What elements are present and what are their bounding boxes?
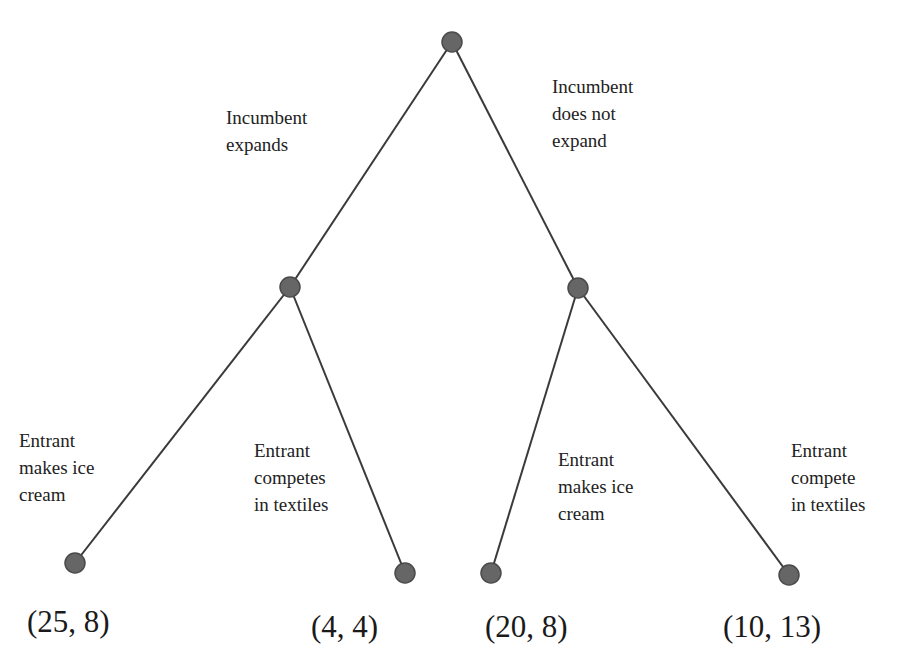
label-right-textiles: Entrant compete in textiles — [791, 437, 865, 518]
decision-node-noexpand — [568, 278, 588, 298]
label-incumbent-not-expand: Incumbent does not expand — [552, 73, 633, 154]
payoff-4: (10, 13) — [723, 610, 821, 644]
edge-root-expand — [290, 42, 452, 287]
terminal-node-4 — [779, 565, 799, 585]
label-left-ice-cream: Entrant makes ice cream — [19, 427, 94, 508]
game-tree — [0, 0, 909, 664]
payoff-3: (20, 8) — [485, 610, 568, 644]
terminal-node-3 — [481, 563, 501, 583]
edge-expand-textiles — [290, 287, 405, 573]
payoff-2: (4, 4) — [311, 610, 378, 644]
payoff-1: (25, 8) — [27, 605, 110, 639]
label-right-ice-cream: Entrant makes ice cream — [558, 446, 633, 527]
terminal-node-1 — [65, 553, 85, 573]
edge-expand-icecream — [75, 287, 290, 563]
label-incumbent-expands: Incumbent expands — [226, 104, 307, 158]
root-node — [442, 32, 462, 52]
decision-node-expand — [280, 277, 300, 297]
edge-noexpand-icecream — [491, 288, 578, 573]
edge-noexpand-textiles — [578, 288, 789, 575]
label-left-textiles: Entrant competes in textiles — [254, 437, 328, 518]
terminal-node-2 — [395, 563, 415, 583]
